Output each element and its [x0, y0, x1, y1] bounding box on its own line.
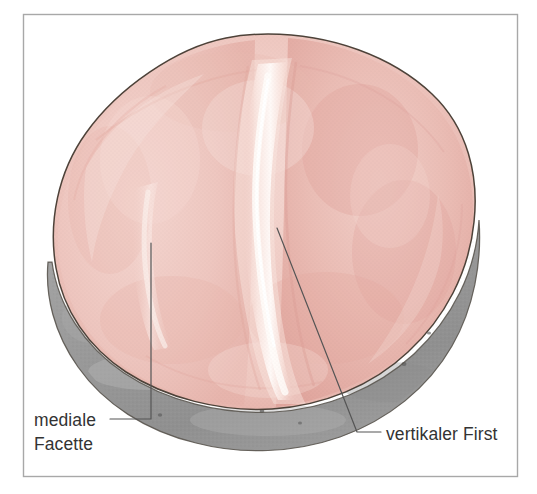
patella-illustration: mediale Facette vertikaler First	[0, 0, 537, 494]
label-mediale-facette-line1: mediale	[34, 410, 96, 430]
label-vertikaler-first-line1: vertikaler First	[386, 424, 498, 444]
bone-speckle	[298, 422, 302, 425]
bone-speckle	[158, 413, 162, 416]
label-vertikaler-first: vertikaler First	[386, 424, 498, 444]
label-mediale-facette-line2: Facette	[34, 434, 93, 454]
figure-container: mediale Facette vertikaler First	[0, 0, 537, 494]
